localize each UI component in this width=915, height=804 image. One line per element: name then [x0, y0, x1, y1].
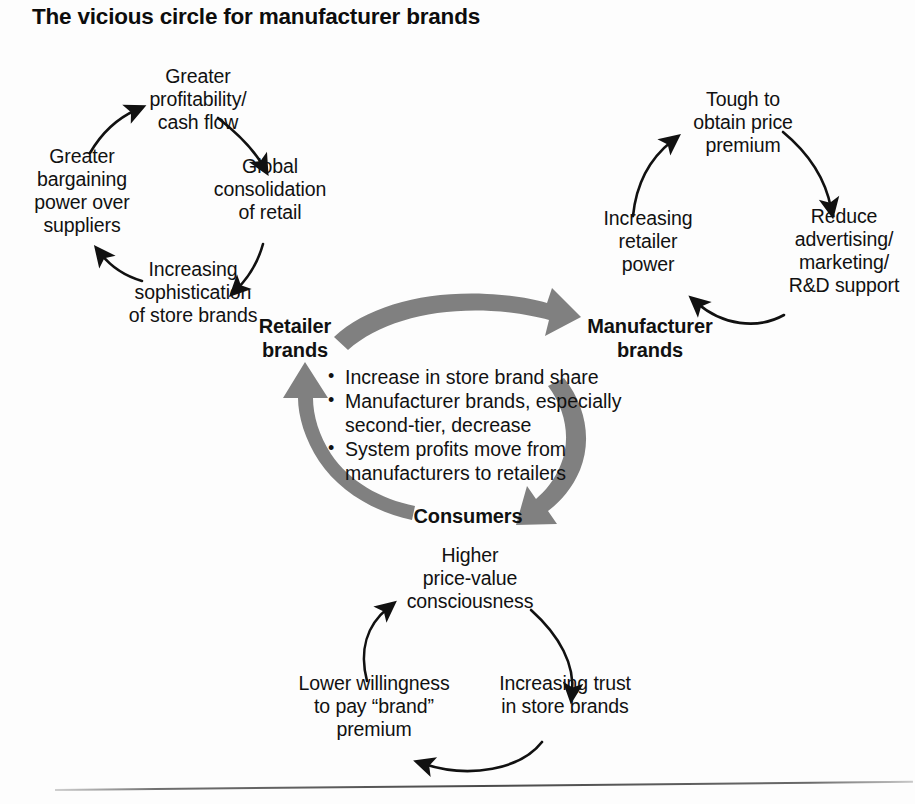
node-reduce-advertising: Reduce advertising/ marketing/ R&D suppo…: [777, 205, 911, 297]
node-global-consolidation: Global consolidation of retail: [206, 155, 334, 224]
diagram-page: The vicious circle for manufacturer bran…: [0, 0, 915, 804]
bullet-item: System profits move from manufacturers t…: [327, 438, 627, 485]
arrow-lower-willingness-to-price-value: [364, 608, 388, 681]
node-tough-price-premium: Tough to obtain price premium: [676, 88, 810, 157]
arrow-trust-to-lower-willingness: [424, 742, 542, 771]
node-increasing-retailer-power: Increasing retailer power: [592, 207, 704, 276]
node-increasing-trust: Increasing trust in store brands: [484, 672, 646, 718]
bullet-item: Manufacturer brands, especially second-t…: [327, 390, 627, 437]
node-consumers: Consumers: [401, 505, 535, 529]
arrow-retailer-power-to-premium: [633, 141, 672, 216]
node-retailer-brands: Retailer brands: [239, 315, 351, 362]
node-greater-profitability: Greater profitability/ cash flow: [128, 65, 268, 134]
node-greater-bargaining-power: Greater bargaining power over suppliers: [14, 145, 150, 237]
node-higher-price-value: Higher price-value consciousness: [392, 544, 548, 613]
gray-arrow-retailer-to-manufacturer: [334, 288, 581, 350]
bullet-item: Increase in store brand share: [327, 366, 627, 389]
center-bullet-list: Increase in store brand share Manufactur…: [327, 366, 627, 486]
node-manufacturer-brands: Manufacturer brands: [570, 315, 730, 362]
node-lower-willingness: Lower willingness to pay “brand” premium: [285, 672, 463, 741]
